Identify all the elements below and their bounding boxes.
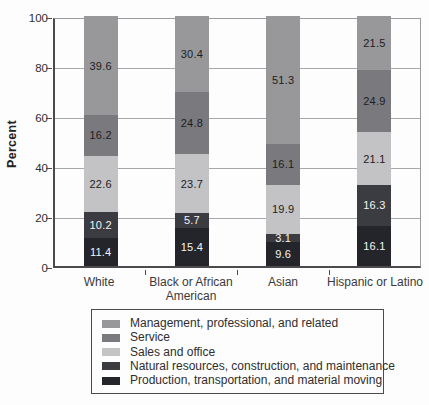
bar-segment: 9.6 [266,242,300,266]
y-tick [46,218,52,219]
x-category-label-line: Black or African [141,276,241,290]
legend-swatch-service [102,334,120,342]
x-category-label-asian: Asian [233,276,333,290]
x-tick [329,270,330,275]
bar-segment: 22.6 [84,156,118,213]
y-tick [46,268,52,269]
bar-asian: 9.63.119.916.151.3 [266,16,300,266]
bar-slot: 15.45.723.724.830.4 [146,19,237,266]
segment-value-label: 5.7 [184,215,200,225]
segment-value-label: 19.9 [272,204,294,214]
legend-swatch-natural-resources [102,362,120,370]
x-category-label-hispanic-or-latino: Hispanic or Latino [325,276,425,290]
legend-label: Production, transportation, and material… [130,374,382,387]
y-tick [46,68,52,69]
segment-value-label: 10.2 [90,220,112,230]
bar-slot: 16.116.321.124.921.5 [329,19,420,266]
bar-segment: 39.6 [84,16,118,115]
bar-segment: 24.9 [357,70,391,132]
bar-segment: 21.5 [357,16,391,70]
bar-segment: 16.3 [357,185,391,226]
segment-value-label: 16.3 [363,200,385,210]
y-tick [46,168,52,169]
x-tick [237,270,238,275]
bar-segment: 30.4 [175,16,209,92]
plot-area: 11.410.222.616.239.615.45.723.724.830.49… [53,18,421,268]
y-tick-label: 80 [8,62,48,74]
segment-value-label: 23.7 [181,179,203,189]
segment-value-label: 9.6 [275,249,291,259]
legend-label: Service [130,331,170,344]
x-category-label-line: White [49,276,149,290]
segment-value-label: 24.8 [181,118,203,128]
legend-swatch-management [102,320,120,328]
segment-value-label: 15.4 [181,242,203,252]
legend-label: Management, professional, and related [130,317,338,330]
bar-black-or-african-american: 15.45.723.724.830.4 [175,16,209,266]
bar-segment: 19.9 [266,185,300,235]
bar-slot: 9.63.119.916.151.3 [238,19,329,266]
bar-segment: 51.3 [266,16,300,144]
legend-item-production-transportation: Production, transportation, and material… [102,374,375,387]
x-category-label-line: Hispanic or Latino [325,276,425,290]
segment-value-label: 24.9 [363,96,385,106]
bar-segment: 16.2 [84,115,118,156]
segment-value-label: 16.2 [90,130,112,140]
legend-swatch-sales-and-office [102,348,120,356]
bar-segment: 16.1 [357,226,391,266]
y-tick-label: 0 [8,262,48,274]
y-tick [46,18,52,19]
y-tick-label: 40 [8,162,48,174]
bar-hispanic-or-latino: 16.116.321.124.921.5 [357,16,391,266]
bar-segment: 3.1 [266,234,300,242]
x-category-label-black-or-african-american: Black or AfricanAmerican [141,276,241,303]
bar-segment: 24.8 [175,92,209,154]
bar-segment: 23.7 [175,154,209,213]
legend-item-service: Service [102,331,375,344]
x-category-label-white: White [49,276,149,290]
bar-slot: 11.410.222.616.239.6 [55,19,146,266]
legend-label: Sales and office [130,346,215,359]
y-tick-label: 60 [8,112,48,124]
bar-segment: 5.7 [175,213,209,227]
segment-value-label: 30.4 [181,49,203,59]
segment-value-label: 16.1 [272,159,294,169]
x-tick [145,270,146,275]
bar-segment: 15.4 [175,228,209,267]
bar-segment: 11.4 [84,238,118,267]
chart: Percent 0 20 40 60 80 100 11.410.222.616… [0,0,429,405]
bars-container: 11.410.222.616.239.615.45.723.724.830.49… [55,19,420,266]
segment-value-label: 16.1 [363,241,385,251]
segment-value-label: 11.4 [90,247,111,257]
legend-item-management: Management, professional, and related [102,317,375,330]
legend-item-sales-and-office: Sales and office [102,346,375,359]
y-tick-label: 100 [8,12,48,24]
segment-value-label: 21.5 [363,38,385,48]
segment-value-label: 51.3 [272,75,294,85]
bar-segment: 16.1 [266,144,300,184]
legend: Management, professional, and related Se… [91,309,384,394]
x-category-label-line: Asian [233,276,333,290]
segment-value-label: 21.1 [363,154,385,164]
segment-value-label: 39.6 [90,61,112,71]
bar-segment: 10.2 [84,212,118,238]
legend-swatch-production-transportation [102,377,120,385]
y-tick [46,118,52,119]
segment-value-label: 3.1 [275,233,291,243]
legend-label: Natural resources, construction, and mai… [130,360,395,373]
x-category-label-line: American [141,290,241,304]
segment-value-label: 22.6 [90,179,112,189]
legend-item-natural-resources: Natural resources, construction, and mai… [102,360,375,373]
y-tick-label: 20 [8,212,48,224]
bar-segment: 21.1 [357,132,391,185]
bar-white: 11.410.222.616.239.6 [84,16,118,266]
